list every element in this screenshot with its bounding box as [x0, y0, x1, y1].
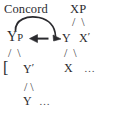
- node-y-bar: Y′: [23, 62, 34, 75]
- node-x: X: [64, 62, 73, 74]
- node-yp-subscript: P: [17, 32, 23, 43]
- concord-label: Concord: [4, 3, 48, 16]
- node-y-leaf: Y: [23, 95, 32, 107]
- node-y-bar-base: Y: [23, 62, 32, 76]
- node-xp: XP: [70, 3, 87, 16]
- node-x-bar-prime: ′: [88, 30, 90, 42]
- branch-under-xp: / \: [72, 16, 85, 28]
- ellipsis-row-three: …: [84, 63, 96, 74]
- node-yp-head: Y: [7, 29, 17, 44]
- node-x-bar-base: X: [79, 31, 88, 45]
- node-x-bar: X′: [79, 31, 90, 44]
- leftward-agreement-arrow: [30, 35, 49, 43]
- left-bracket: [: [3, 60, 8, 76]
- node-y: Y: [62, 32, 71, 44]
- node-yp: YP: [7, 30, 23, 44]
- concord-tree-figure: Concord XP / \ YP Y X′ / \ / \ [ Y′ X … …: [0, 0, 128, 114]
- ellipsis-row-four: …: [39, 96, 51, 107]
- branch-under-x-bar: / \: [64, 47, 77, 59]
- branch-under-yp: / \: [8, 47, 21, 59]
- branch-under-y-bar: / \: [24, 81, 34, 93]
- node-y-bar-prime: ′: [32, 61, 34, 73]
